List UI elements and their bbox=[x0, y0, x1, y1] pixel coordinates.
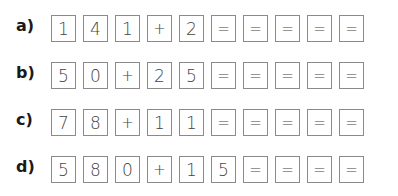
digit-box[interactable]: 0 bbox=[83, 62, 108, 89]
digit-box[interactable]: = bbox=[211, 62, 236, 89]
digit-box[interactable]: = bbox=[243, 62, 268, 89]
digit-box[interactable]: 0 bbox=[115, 156, 140, 183]
digit-box[interactable]: = bbox=[339, 62, 364, 89]
digit-box[interactable]: = bbox=[275, 156, 300, 183]
digit-box[interactable]: 1 bbox=[179, 109, 204, 136]
digit-box[interactable]: 4 bbox=[83, 15, 108, 42]
digit-box[interactable]: = bbox=[275, 15, 300, 42]
exercise-label: a) bbox=[16, 16, 34, 35]
digit-box[interactable]: 1 bbox=[51, 15, 76, 42]
digit-box[interactable]: = bbox=[307, 156, 332, 183]
digit-box[interactable]: 8 bbox=[83, 109, 108, 136]
digit-box[interactable]: 1 bbox=[115, 15, 140, 42]
digit-box[interactable]: 5 bbox=[51, 62, 76, 89]
digit-box[interactable]: + bbox=[147, 156, 172, 183]
digit-box[interactable]: + bbox=[115, 62, 140, 89]
digit-box[interactable]: 5 bbox=[51, 156, 76, 183]
digit-box[interactable]: = bbox=[339, 15, 364, 42]
digit-box[interactable]: 5 bbox=[211, 156, 236, 183]
digit-box[interactable]: = bbox=[307, 109, 332, 136]
exercise-row: a)141+2===== bbox=[0, 15, 398, 45]
digit-box[interactable]: 1 bbox=[147, 109, 172, 136]
digit-box[interactable]: = bbox=[307, 62, 332, 89]
exercise-label: b) bbox=[16, 63, 35, 82]
digit-box[interactable]: = bbox=[339, 109, 364, 136]
digit-box[interactable]: = bbox=[211, 15, 236, 42]
digit-box[interactable]: 2 bbox=[147, 62, 172, 89]
exercise-row: c)78+11===== bbox=[0, 109, 398, 139]
exercise-label: c) bbox=[16, 110, 33, 129]
exercise-label: d) bbox=[16, 157, 35, 176]
digit-box[interactable]: = bbox=[243, 109, 268, 136]
digit-box[interactable]: = bbox=[339, 156, 364, 183]
digit-box[interactable]: 1 bbox=[179, 156, 204, 183]
exercise-row: b)50+25===== bbox=[0, 62, 398, 92]
digit-box[interactable]: = bbox=[275, 62, 300, 89]
digit-box[interactable]: 2 bbox=[179, 15, 204, 42]
digit-box[interactable]: = bbox=[243, 15, 268, 42]
digit-box[interactable]: 8 bbox=[83, 156, 108, 183]
digit-box[interactable]: + bbox=[115, 109, 140, 136]
exercise-row: d)580+15==== bbox=[0, 156, 398, 186]
digit-box[interactable]: = bbox=[307, 15, 332, 42]
digit-box[interactable]: 7 bbox=[51, 109, 76, 136]
digit-box[interactable]: = bbox=[211, 109, 236, 136]
digit-box[interactable]: + bbox=[147, 15, 172, 42]
digit-box[interactable]: = bbox=[275, 109, 300, 136]
digit-box[interactable]: = bbox=[243, 156, 268, 183]
digit-box[interactable]: 5 bbox=[179, 62, 204, 89]
